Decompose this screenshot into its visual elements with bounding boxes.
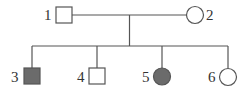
female-circle-icon (187, 7, 204, 24)
individual-4: 4 (77, 68, 105, 85)
individual-5: 5 (142, 68, 171, 85)
male-square-icon (56, 7, 72, 23)
pedigree-svg: 1 2 3 4 5 6 (0, 0, 247, 93)
individual-1: 1 (44, 7, 72, 23)
individual-6: 6 (208, 69, 237, 86)
individual-label: 6 (208, 69, 216, 85)
individual-3: 3 (11, 68, 40, 85)
individual-label: 4 (77, 69, 85, 85)
individual-label: 5 (142, 69, 150, 85)
individual-2: 2 (187, 7, 214, 24)
individual-label: 3 (11, 69, 19, 85)
affected-female-circle-icon (154, 68, 171, 85)
male-square-icon (89, 68, 105, 84)
pedigree-diagram: 1 2 3 4 5 6 (0, 0, 247, 93)
affected-male-square-icon (24, 68, 40, 84)
female-circle-icon (220, 69, 237, 86)
individual-label: 2 (206, 7, 214, 23)
individual-label: 1 (44, 7, 52, 23)
